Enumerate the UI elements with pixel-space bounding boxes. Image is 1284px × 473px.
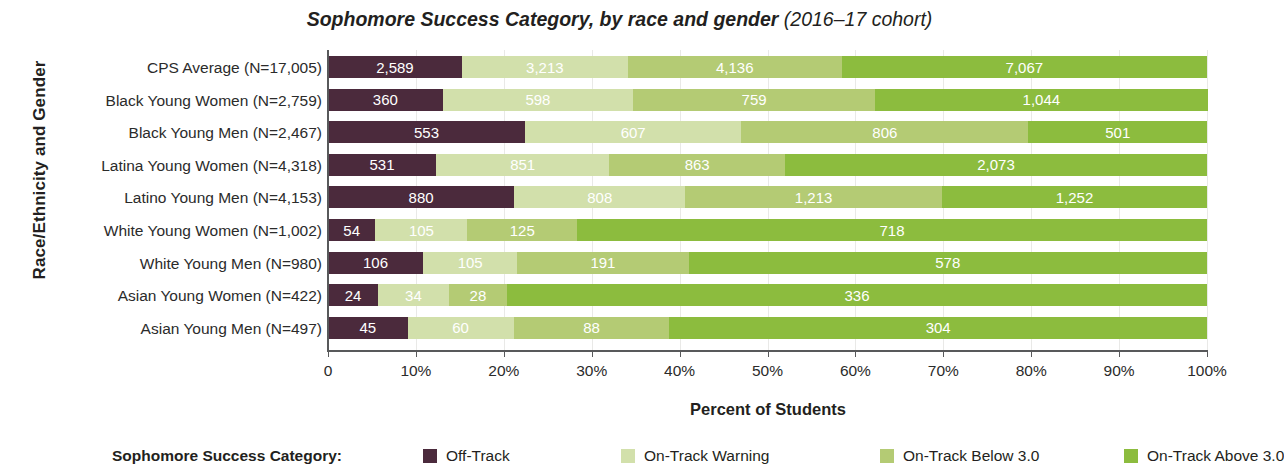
bar-segment[interactable]: 88 (514, 317, 670, 339)
bar-segment[interactable]: 106 (328, 252, 423, 274)
bar-segment[interactable]: 1,213 (685, 186, 942, 208)
x-axis-tick (855, 350, 856, 357)
bar-segment[interactable]: 598 (443, 89, 634, 111)
x-axis-tick (768, 350, 769, 357)
category-label: Black Young Men (N=2,467) (30, 125, 322, 141)
bar-segment[interactable]: 553 (328, 121, 525, 143)
bar-segment[interactable]: 4,136 (628, 56, 842, 78)
plot-area: 2,5893,2134,1367,0673605987591,044553607… (328, 50, 1207, 350)
bar-segment[interactable]: 863 (609, 154, 785, 176)
legend-item[interactable]: On-Track Above 3.0 (1124, 447, 1284, 465)
legend-item[interactable]: On-Track Warning (621, 447, 769, 465)
x-axis-tick-label: 70% (908, 362, 978, 380)
bar-segment[interactable]: 531 (328, 154, 436, 176)
legend-label: On-Track Warning (644, 447, 769, 465)
bar-segment[interactable]: 1,252 (942, 186, 1207, 208)
legend-swatch-icon (423, 449, 437, 463)
chart-title-subtitle: (2016–17 cohort) (784, 8, 933, 30)
x-axis-tick-label: 20% (469, 362, 539, 380)
bar-row[interactable]: 106105191578 (328, 252, 1207, 274)
legend-label: Off-Track (446, 447, 510, 465)
bar-row[interactable]: 2,5893,2134,1367,067 (328, 56, 1207, 78)
category-label: White Young Men (N=980) (30, 256, 322, 272)
category-label: Latina Young Women (N=4,318) (30, 158, 322, 174)
bar-segment[interactable]: 60 (408, 317, 514, 339)
legend-label: On-Track Above 3.0 (1147, 447, 1284, 465)
bar-row[interactable]: 3605987591,044 (328, 89, 1207, 111)
legend-item[interactable]: On-Track Below 3.0 (880, 447, 1039, 465)
bar-segment[interactable]: 24 (328, 284, 378, 306)
legend-title: Sophomore Success Category: (112, 447, 342, 465)
bar-segment[interactable]: 45 (328, 317, 408, 339)
bar-row[interactable]: 8808081,2131,252 (328, 186, 1207, 208)
category-axis-labels: CPS Average (N=17,005)Black Young Women … (30, 50, 322, 350)
bar-segment[interactable]: 7,067 (842, 56, 1207, 78)
legend-swatch-icon (880, 449, 894, 463)
bar-segment[interactable]: 3,213 (462, 56, 628, 78)
category-label: Black Young Women (N=2,759) (30, 93, 322, 109)
x-axis-tick (592, 350, 593, 357)
bar-row[interactable]: 553607806501 (328, 121, 1207, 143)
x-axis-tick (1119, 350, 1120, 357)
bar-segment[interactable]: 578 (689, 252, 1207, 274)
bar-segment[interactable]: 718 (577, 219, 1207, 241)
bar-segment[interactable]: 304 (669, 317, 1207, 339)
bar-segment[interactable]: 28 (449, 284, 507, 306)
bar-segment[interactable]: 2,589 (328, 56, 462, 78)
x-axis-tick-label: 0 (293, 362, 363, 380)
y-axis-line (327, 50, 329, 352)
chart-title-main: Sophomore Success Category, by race and … (307, 8, 779, 30)
category-label: White Young Women (N=1,002) (30, 223, 322, 239)
category-label: Latino Young Men (N=4,153) (30, 190, 322, 206)
bar-row[interactable]: 5318518632,073 (328, 154, 1207, 176)
bar-segment[interactable]: 336 (507, 284, 1207, 306)
bar-segment[interactable]: 191 (517, 252, 688, 274)
bar-segment[interactable]: 54 (328, 219, 375, 241)
bar-segment[interactable]: 806 (741, 121, 1028, 143)
bar-segment[interactable]: 607 (525, 121, 741, 143)
bar-segment[interactable]: 759 (633, 89, 875, 111)
bar-segment[interactable]: 851 (436, 154, 609, 176)
bar-segment[interactable]: 880 (328, 186, 514, 208)
x-axis-tick-label: 80% (996, 362, 1066, 380)
x-axis-tick-label: 10% (381, 362, 451, 380)
category-label: CPS Average (N=17,005) (30, 60, 322, 76)
legend-swatch-icon (1124, 449, 1138, 463)
bar-row[interactable]: 243428336 (328, 284, 1207, 306)
x-axis-tick (328, 350, 329, 357)
x-axis-tick-label: 90% (1084, 362, 1154, 380)
legend-swatch-icon (621, 449, 635, 463)
bar-row[interactable]: 456088304 (328, 317, 1207, 339)
bar-segment[interactable]: 105 (375, 219, 467, 241)
chart-title: Sophomore Success Category, by race and … (0, 8, 1239, 31)
x-axis-tick-label: 30% (557, 362, 627, 380)
x-axis-tick-label: 60% (820, 362, 890, 380)
x-axis-tick (943, 350, 944, 357)
bar-segment[interactable]: 105 (423, 252, 517, 274)
bar-segment[interactable]: 2,073 (785, 154, 1207, 176)
bar-segment[interactable]: 125 (467, 219, 577, 241)
x-axis-tick (680, 350, 681, 357)
x-axis-tick (1207, 350, 1208, 357)
x-axis-title: Percent of Students (328, 400, 1208, 419)
x-axis-tick (1031, 350, 1032, 357)
bar-segment[interactable]: 501 (1028, 121, 1207, 143)
bar-segment[interactable]: 34 (378, 284, 449, 306)
x-axis-tick (504, 350, 505, 357)
bar-segment[interactable]: 1,044 (875, 89, 1208, 111)
category-label: Asian Young Men (N=497) (30, 321, 322, 337)
bar-segment[interactable]: 808 (514, 186, 685, 208)
legend-item[interactable]: Off-Track (423, 447, 510, 465)
x-axis-tick (416, 350, 417, 357)
category-label: Asian Young Women (N=422) (30, 288, 322, 304)
bar-segment[interactable]: 360 (328, 89, 443, 111)
x-axis-tick-label: 40% (645, 362, 715, 380)
bar-row[interactable]: 54105125718 (328, 219, 1207, 241)
x-axis-tick-label: 100% (1172, 362, 1242, 380)
x-axis-tick-label: 50% (733, 362, 803, 380)
chart-legend: Sophomore Success Category:Off-TrackOn-T… (0, 444, 1239, 468)
legend-label: On-Track Below 3.0 (903, 447, 1039, 465)
